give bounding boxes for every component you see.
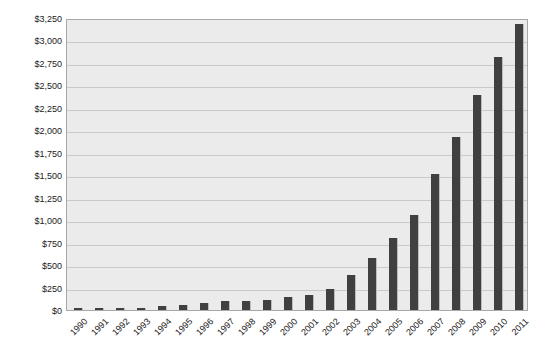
y-axis-tick-label: $750 bbox=[2, 240, 62, 249]
bar bbox=[263, 300, 271, 310]
y-axis-tick-label: $2,000 bbox=[2, 127, 62, 136]
bar bbox=[515, 24, 523, 310]
x-axis: 1990199119921993199419951996199719981999… bbox=[66, 311, 528, 357]
bar bbox=[284, 297, 292, 310]
bar-chart: $3,250$3,000$2,750$2,500$2,250$2,000$1,7… bbox=[0, 0, 555, 360]
y-axis-tick-label: $1,000 bbox=[2, 217, 62, 226]
bar bbox=[242, 301, 250, 310]
y-axis-tick-label: $250 bbox=[2, 285, 62, 294]
y-axis-tick-label: $1,500 bbox=[2, 172, 62, 181]
y-axis-tick-label: $1,250 bbox=[2, 195, 62, 204]
bar bbox=[347, 275, 355, 310]
y-axis-tick-label: $0 bbox=[2, 307, 62, 316]
bar bbox=[431, 174, 439, 310]
bar bbox=[158, 306, 166, 310]
bar bbox=[221, 301, 229, 310]
y-axis-tick-label: $3,250 bbox=[2, 15, 62, 24]
y-axis: $3,250$3,000$2,750$2,500$2,250$2,000$1,7… bbox=[0, 0, 62, 360]
bar bbox=[74, 308, 82, 310]
bar bbox=[326, 289, 334, 310]
bar bbox=[368, 258, 376, 310]
y-axis-tick-label: $2,500 bbox=[2, 82, 62, 91]
bar bbox=[494, 57, 502, 310]
bar bbox=[200, 303, 208, 310]
bar bbox=[116, 308, 124, 310]
bar bbox=[95, 308, 103, 310]
bars-layer bbox=[67, 20, 527, 310]
bar bbox=[389, 238, 397, 310]
y-axis-tick-label: $3,000 bbox=[2, 37, 62, 46]
y-axis-tick-label: $1,750 bbox=[2, 150, 62, 159]
bar bbox=[473, 95, 481, 310]
bar bbox=[305, 295, 313, 310]
y-axis-tick-label: $2,250 bbox=[2, 105, 62, 114]
bar bbox=[452, 137, 460, 310]
plot-area bbox=[66, 19, 528, 311]
y-axis-tick-label: $2,750 bbox=[2, 60, 62, 69]
bar bbox=[137, 308, 145, 310]
bar bbox=[410, 215, 418, 310]
y-axis-tick-label: $500 bbox=[2, 262, 62, 271]
bar bbox=[179, 305, 187, 310]
